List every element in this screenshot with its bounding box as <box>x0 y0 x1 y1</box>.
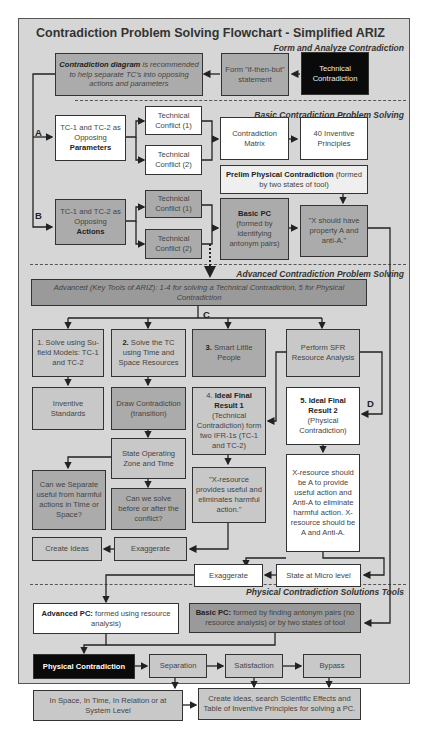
advanced-banner[interactable]: Advanced (Key Tools of ARIZ): 1-4 for so… <box>31 279 367 306</box>
prelim-physical-contradiction-box[interactable]: Prelim Physical Contradiction (formed by… <box>220 165 368 194</box>
technical-conflict-2-actions[interactable]: Technical Conflict (2) <box>145 229 202 259</box>
micro-level-box[interactable]: State at Micro level <box>276 564 361 587</box>
basic-pc-box[interactable]: Basic PC(formed by identifying antonym p… <box>220 198 289 260</box>
draw-contradiction-box[interactable]: Draw Contradiction (transition) <box>111 387 186 430</box>
create-ideas-pc-box[interactable]: Create ideas, search Scientific Effects … <box>198 688 361 720</box>
x-resource-long-box[interactable]: X-resource should be A to provide useful… <box>286 454 360 552</box>
solve-tc-resources-box[interactable]: 2. Solve the TC using Time and Space Res… <box>111 329 186 377</box>
technical-conflict-1-actions[interactable]: Technical Conflict (1) <box>145 190 202 218</box>
section-divider <box>75 100 406 101</box>
x-should-property-box[interactable]: "X should have property A and anti-A." <box>300 205 368 257</box>
technical-conflict-1-params[interactable]: Technical Conflict (1) <box>145 106 202 135</box>
exaggerate-box-1[interactable]: Exaggerate <box>114 537 187 561</box>
technical-contradiction-box[interactable]: Technical Contradiction <box>301 52 369 95</box>
section-divider <box>30 264 406 265</box>
create-ideas-box[interactable]: Create Ideas <box>32 537 102 561</box>
advanced-pc-box[interactable]: Advanced PC: formed using resource analy… <box>33 603 179 634</box>
separation-box[interactable]: Separation <box>149 654 207 678</box>
x-resource-quote-box[interactable]: "X-resource provides useful and eliminat… <box>192 467 266 523</box>
inventive-standards-box[interactable]: Inventive Standards <box>32 387 104 430</box>
state-operating-zone-box[interactable]: State Operating Zone and Time <box>111 438 186 479</box>
smart-little-people-box[interactable]: 3. Smart Little People <box>192 329 266 377</box>
opposing-parameters-box[interactable]: TC-1 and TC-2 as OpposingParameters <box>55 115 126 161</box>
opposing-actions-box[interactable]: TC-1 and TC-2 as OpposingActions <box>55 199 126 245</box>
inventive-principles-box[interactable]: 40 Inventive Principles <box>300 117 368 160</box>
in-space-time-box[interactable]: In Space, In Time, In Relation or at Sys… <box>33 690 183 721</box>
page-title: Contradiction Problem Solving Flowchart … <box>36 26 385 40</box>
ideal-final-result-2-box[interactable]: 5. Ideal Final Result 2(Physical Contrad… <box>286 387 360 445</box>
label-b: B <box>35 210 42 221</box>
label-a: A <box>35 127 42 138</box>
section-pc-tools-header: Physical Contradiction Solutions Tools <box>246 587 404 597</box>
solve-before-after-box[interactable]: Can we solve before or after the conflic… <box>111 488 186 530</box>
bypass-box[interactable]: Bypass <box>303 654 361 678</box>
section-advanced-header: Advanced Contradiction Problem Solving <box>236 269 404 279</box>
satisfaction-box[interactable]: Satisfaction <box>225 654 283 678</box>
physical-contradiction-box[interactable]: Physical Contradiction <box>33 654 135 679</box>
exaggerate-box-2[interactable]: Exaggerate <box>194 564 263 587</box>
su-field-box[interactable]: 1. Solve using Su-field Models: TC-1 and… <box>32 329 104 377</box>
technical-conflict-2-params[interactable]: Technical Conflict (2) <box>145 145 202 175</box>
sfr-resource-analysis-box[interactable]: Perform SFR Resource Analysis <box>286 329 360 377</box>
contradiction-matrix-box[interactable]: Contradiction Matrix <box>220 117 289 160</box>
label-c: C <box>203 309 210 320</box>
contradiction-diagram-box[interactable]: Contradiction diagram is recommended to … <box>55 53 203 96</box>
label-d: D <box>367 398 374 409</box>
ideal-final-result-1-box[interactable]: 4. Ideal Final Result 1(Technical Contra… <box>192 387 266 455</box>
basic-pc-tools-box[interactable]: Basic PC: formed by finding antonym pair… <box>189 603 361 633</box>
if-then-but-box[interactable]: Form "if-then-but" statement <box>221 53 289 96</box>
separate-useful-harmful-box[interactable]: Can we Separate useful from harmful acti… <box>32 470 106 530</box>
